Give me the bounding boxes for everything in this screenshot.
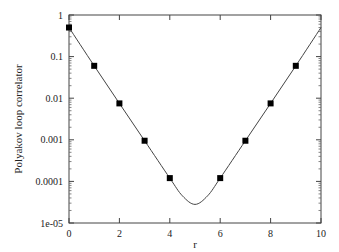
data-point (91, 63, 97, 69)
data-markers (66, 25, 299, 182)
data-point (293, 63, 299, 69)
x-tick-label: 0 (67, 228, 72, 239)
data-point (167, 175, 173, 181)
data-point (242, 138, 248, 144)
y-axis-title: Polyakov loop correlator (12, 64, 24, 174)
chart: 10.10.010.0010.00011e-05 0246810 r Polya… (0, 0, 339, 252)
data-point (116, 100, 122, 106)
x-axis: 0246810 (67, 15, 327, 239)
y-tick-label: 0.01 (46, 93, 64, 104)
data-point (268, 100, 274, 106)
data-point (142, 138, 148, 144)
y-tick-label: 0.1 (51, 51, 64, 62)
x-axis-title: r (193, 238, 197, 250)
x-tick-label: 4 (167, 228, 172, 239)
y-tick-label: 1 (58, 10, 63, 21)
x-tick-label: 10 (316, 228, 326, 239)
y-tick-label: 1e-05 (40, 218, 63, 229)
y-tick-label: 0.0001 (36, 176, 64, 187)
data-point (217, 175, 223, 181)
y-tick-label: 0.001 (41, 134, 64, 145)
x-tick-label: 2 (117, 228, 122, 239)
x-tick-label: 6 (218, 228, 223, 239)
x-tick-label: 8 (268, 228, 273, 239)
plot-frame (69, 15, 321, 223)
data-point (66, 25, 72, 31)
fit-curve (69, 28, 321, 205)
